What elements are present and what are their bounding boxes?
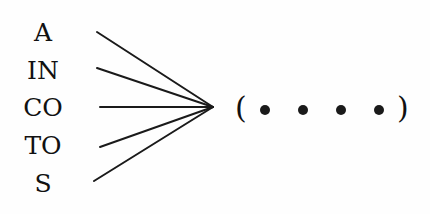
diagram-canvas: A IN CO TO S ( ) bbox=[0, 0, 430, 214]
close-paren: ) bbox=[397, 93, 409, 123]
open-paren: ( bbox=[235, 93, 247, 123]
dot-2 bbox=[298, 105, 308, 115]
converging-lines bbox=[0, 0, 430, 214]
dot-4 bbox=[374, 105, 384, 115]
line-s bbox=[94, 107, 213, 181]
dot-1 bbox=[260, 105, 270, 115]
line-a bbox=[97, 32, 213, 107]
dot-3 bbox=[336, 105, 346, 115]
line-in bbox=[97, 68, 213, 107]
